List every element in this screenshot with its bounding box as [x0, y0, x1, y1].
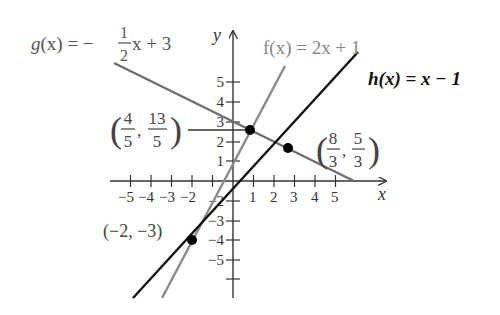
y-tick-label: 1 [217, 153, 225, 169]
svg-text:1: 1 [120, 24, 128, 41]
svg-text:13: 13 [149, 109, 166, 128]
x-tick-label: −3 [159, 189, 175, 205]
point-label-fh: (−2, −3) [103, 221, 162, 242]
svg-text:5: 5 [124, 132, 133, 151]
y-tick-label: 2 [217, 134, 225, 150]
g-function-label: g(x) = − 1 2 x + 3 [31, 24, 171, 64]
x-tick-label: 2 [270, 189, 278, 205]
svg-text:,: , [342, 141, 346, 160]
y-tick-label: −4 [208, 232, 224, 248]
x-tick-label: −2 [180, 189, 196, 205]
y-tick-label: −3 [208, 213, 224, 229]
svg-text:g(x) = −: g(x) = − [31, 33, 94, 55]
point-label-gh: ( 8 3 , 5 3 ) [316, 129, 380, 171]
svg-text:5: 5 [153, 132, 162, 151]
svg-text:3: 3 [329, 152, 338, 171]
svg-text:3: 3 [354, 152, 363, 171]
x-tick-labels: −5 −4 −3 −2 1 2 3 4 5 [118, 189, 339, 205]
svg-text:8: 8 [329, 129, 338, 148]
point-label-fg: ( 4 5 , 13 5 ) [110, 109, 182, 151]
svg-text:(: ( [316, 130, 328, 170]
svg-text:4: 4 [124, 109, 133, 128]
y-tick-label: −5 [208, 252, 224, 268]
svg-text:5: 5 [354, 129, 363, 148]
svg-text:): ) [368, 130, 380, 170]
x-tick-label: 5 [331, 189, 339, 205]
intersection-point-fg [245, 125, 255, 135]
svg-text:): ) [170, 110, 182, 150]
h-function-label: h(x) = x − 1 [368, 68, 461, 90]
svg-text:(: ( [110, 110, 122, 150]
y-tick-label: 4 [217, 94, 225, 110]
intersection-point-gh [283, 143, 293, 153]
y-tick-label: 5 [217, 74, 225, 90]
x-tick-label: 1 [249, 189, 257, 205]
f-function-label: f(x) = 2x + 1 [263, 37, 360, 59]
intersection-point-fh [187, 235, 197, 245]
graph-canvas: −5 −4 −3 −2 1 2 3 4 5 5 4 3 2 1 −2 −3 −4… [0, 0, 500, 315]
svg-text:2: 2 [120, 47, 128, 64]
y-tick-labels: 5 4 3 2 1 −2 −3 −4 −5 [208, 74, 224, 268]
x-tick-label: 4 [311, 189, 319, 205]
x-tick-label: −4 [138, 189, 154, 205]
svg-text:,: , [137, 121, 141, 140]
svg-text:x + 3: x + 3 [132, 33, 171, 54]
x-tick-label: −5 [118, 189, 134, 205]
x-tick-label: 3 [290, 189, 298, 205]
y-axis-label: y [211, 25, 221, 45]
x-axis-label: x [377, 184, 386, 204]
